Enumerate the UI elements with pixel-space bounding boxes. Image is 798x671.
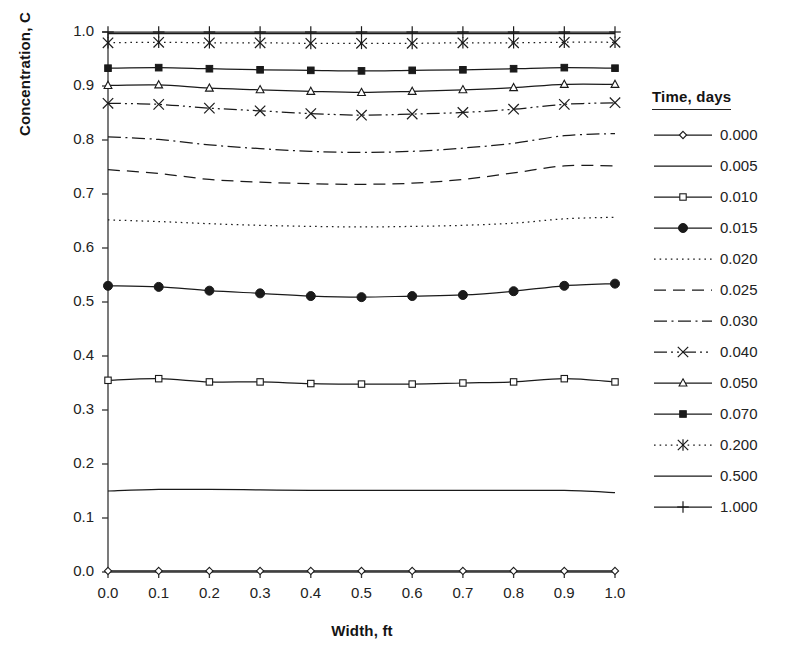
series-0-030 (108, 134, 615, 153)
chart-legend: Time, days 0.0000.0050.0100.0150.0200.02… (652, 88, 792, 522)
legend-swatch (652, 249, 714, 269)
data-point-marker (408, 292, 417, 301)
data-point-marker (561, 375, 567, 381)
data-point-marker (560, 281, 569, 290)
legend-item[interactable]: 0.030 (652, 305, 792, 336)
data-point-marker (206, 379, 212, 385)
data-point-marker (609, 26, 621, 38)
x-tick-label: 0.8 (491, 584, 537, 601)
y-tick-label: 0.4 (48, 346, 94, 363)
data-point-marker (156, 375, 162, 381)
x-tick-label: 0.4 (288, 584, 334, 601)
x-tick-label: 1.0 (592, 584, 638, 601)
data-point-marker (559, 26, 571, 38)
data-point-marker (307, 567, 314, 574)
legend-label: 0.005 (714, 157, 758, 174)
data-point-marker (257, 567, 264, 574)
y-tick-label: 0.2 (48, 454, 94, 471)
legend-swatch (652, 156, 714, 176)
series-0-040 (103, 98, 620, 121)
data-point-marker (510, 567, 517, 574)
data-point-marker (155, 567, 162, 574)
data-point-marker (680, 193, 686, 199)
legend-item[interactable]: 0.010 (652, 181, 792, 212)
x-tick-label: 0.2 (186, 584, 232, 601)
legend-item[interactable]: 0.020 (652, 243, 792, 274)
series-0-200 (103, 36, 620, 49)
data-point-marker (153, 26, 165, 38)
data-point-marker (308, 380, 314, 386)
legend-item[interactable]: 0.015 (652, 212, 792, 243)
legend-swatch (652, 466, 714, 486)
data-point-marker (204, 26, 216, 38)
legend-swatch (652, 218, 714, 238)
data-point-marker (406, 26, 418, 38)
legend-item[interactable]: 0.000 (652, 119, 792, 150)
data-point-marker (357, 293, 366, 302)
legend-label: 1.000 (714, 498, 758, 515)
data-point-marker (206, 567, 213, 574)
legend-label: 0.040 (714, 343, 758, 360)
legend-item[interactable]: 0.070 (652, 398, 792, 429)
series-0-015 (104, 279, 620, 302)
data-point-marker (561, 64, 568, 71)
data-point-marker (679, 223, 688, 232)
series-0-010 (105, 375, 618, 387)
data-point-marker (305, 26, 317, 38)
data-point-marker (105, 65, 112, 72)
series-line (108, 217, 615, 227)
chart-figure: Concentration, C Width, ft 0.00.10.20.30… (0, 0, 798, 671)
series-line (108, 165, 615, 184)
y-tick-label: 0.5 (48, 292, 94, 309)
legend-label: 0.070 (714, 405, 758, 422)
legend-item[interactable]: 0.025 (652, 274, 792, 305)
data-point-marker (677, 501, 689, 513)
x-tick-label: 0.3 (237, 584, 283, 601)
data-point-marker (612, 65, 619, 72)
legend-item[interactable]: 0.050 (652, 367, 792, 398)
data-point-marker (306, 292, 315, 301)
data-point-marker (256, 289, 265, 298)
legend-label: 0.025 (714, 281, 758, 298)
legend-swatch (652, 311, 714, 331)
legend-swatch (652, 342, 714, 362)
data-point-marker (306, 38, 316, 50)
data-point-marker (154, 36, 164, 48)
data-point-marker (358, 68, 365, 75)
legend-item[interactable]: 0.200 (652, 429, 792, 460)
data-point-marker (460, 380, 466, 386)
y-tick-label: 0.6 (48, 238, 94, 255)
data-point-marker (457, 26, 469, 38)
legend-entries: 0.0000.0050.0100.0150.0200.0250.0300.040… (652, 119, 792, 522)
data-point-marker (510, 379, 516, 385)
y-tick-label: 1.0 (48, 22, 94, 39)
series-line (108, 103, 615, 115)
legend-label: 0.010 (714, 188, 758, 205)
legend-item[interactable]: 0.005 (652, 150, 792, 181)
data-point-marker (458, 290, 467, 299)
data-point-marker (255, 37, 265, 49)
data-point-marker (104, 281, 113, 290)
legend-label: 0.030 (714, 312, 758, 329)
legend-swatch (652, 187, 714, 207)
series-line (108, 489, 615, 492)
legend-item[interactable]: 0.500 (652, 460, 792, 491)
data-point-marker (154, 282, 163, 291)
data-point-marker (358, 567, 365, 574)
legend-label: 0.020 (714, 250, 758, 267)
data-point-marker (356, 26, 368, 38)
series-line (108, 134, 615, 153)
data-point-marker (680, 410, 687, 417)
data-point-marker (105, 377, 111, 383)
x-tick-label: 0.6 (389, 584, 435, 601)
series-0-070 (105, 64, 619, 74)
legend-item[interactable]: 0.040 (652, 336, 792, 367)
data-point-marker (206, 65, 213, 72)
series-0-050 (104, 80, 619, 95)
series-1-000 (102, 26, 621, 38)
legend-label: 0.015 (714, 219, 758, 236)
data-point-marker (679, 131, 686, 138)
x-tick-label: 0.5 (339, 584, 385, 601)
y-tick-label: 0.7 (48, 184, 94, 201)
legend-item[interactable]: 1.000 (652, 491, 792, 522)
